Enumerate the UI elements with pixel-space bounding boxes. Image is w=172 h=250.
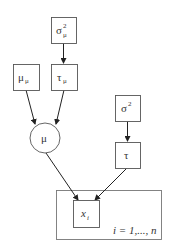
node-mu-label: μ <box>41 132 47 144</box>
node-mu-mu: μ μ <box>14 65 40 91</box>
node-tau-label: τ <box>124 149 129 161</box>
tau-mu-sub: μ <box>63 77 67 85</box>
edge-mumu-mu <box>26 90 35 124</box>
edge-taumu-mu <box>56 90 64 124</box>
plate-label: i = 1,..., n <box>113 224 157 236</box>
node-mu: μ <box>30 123 60 153</box>
sigma2-sup: 2 <box>128 100 132 108</box>
node-sigma2-mu-label: σ <box>56 24 62 36</box>
node-tau: τ <box>116 143 141 169</box>
node-sigma2: σ 2 <box>116 96 141 122</box>
edge-tau-xi <box>95 168 127 200</box>
edge-mu-xi <box>46 153 78 200</box>
node-sigma2-mu: σ 2 μ <box>52 18 77 44</box>
node-tau-mu: τ μ <box>52 65 78 91</box>
sigma2-mu-sup: 2 <box>63 22 67 30</box>
x-i-sub: i <box>87 214 89 222</box>
mu-mu-sub: μ <box>25 77 29 85</box>
node-sigma2-label: σ <box>121 102 127 114</box>
sigma2-mu-sub: μ <box>63 31 67 39</box>
node-x-i-label: x <box>80 207 86 219</box>
node-tau-mu-label: τ <box>57 71 62 83</box>
node-x-i: x i <box>74 201 100 228</box>
node-mu-mu-label: μ <box>18 71 24 83</box>
graphical-model-diagram: i = 1,..., n σ 2 μ μ μ τ μ μ σ 2 τ <box>0 0 172 250</box>
